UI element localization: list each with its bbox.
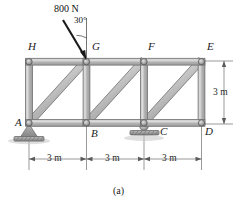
joint-pin-h: [26, 59, 32, 65]
member-g-b: [83, 60, 90, 125]
member-e-d: [198, 60, 205, 125]
load-angle-label: 30°: [74, 16, 87, 25]
member-a-b: [26, 120, 84, 127]
member-f-c: [141, 60, 148, 125]
member-f-e: [141, 58, 205, 65]
joint-pin-g: [83, 59, 89, 65]
joint-label-f: F: [148, 41, 155, 52]
member-c-e: [141, 58, 204, 125]
top-chord-members: [26, 58, 205, 65]
member-h-g: [26, 58, 84, 65]
joint-label-h: H: [28, 41, 36, 52]
bottom-chord-members: [26, 120, 205, 127]
joint-label-d: D: [205, 126, 213, 137]
member-b-f: [84, 58, 147, 125]
member-c-d: [141, 120, 205, 127]
joint-label-g: G: [92, 41, 100, 52]
load-magnitude-label: 800 N: [54, 4, 79, 14]
joint-label-a: A: [15, 117, 22, 128]
dimension-label-cd: 3 m: [162, 154, 177, 164]
joint-label-b: B: [91, 128, 98, 139]
joint-pin-b: [83, 120, 89, 126]
member-g-f: [83, 58, 141, 65]
joint-pin-f: [141, 59, 147, 65]
joint-label-c: C: [160, 126, 167, 137]
diagonal-members: [26, 58, 204, 125]
load-arrow-shaft: [63, 20, 84, 56]
member-a-g: [26, 58, 89, 125]
dimension-label-bc: 3 m: [105, 154, 120, 164]
joint-label-e: E: [207, 41, 214, 52]
load-angle-arc: [77, 35, 87, 38]
dimension-label-ab: 3 m: [47, 154, 62, 164]
member-h-a: [26, 60, 33, 125]
truss-figure: 800 N 30° H G F E A B C D 3 m 3 m 3 m 3 …: [0, 0, 250, 207]
dimension-label-height: 3 m: [213, 88, 228, 98]
figure-caption: (a): [113, 186, 124, 196]
joint-pin-a: [26, 120, 32, 126]
joint-pin-c: [141, 120, 147, 126]
joint-pin-d: [198, 120, 204, 126]
joint-pin-e: [198, 59, 204, 65]
member-b-c: [83, 120, 141, 127]
truss-diagram-svg: [0, 0, 250, 207]
